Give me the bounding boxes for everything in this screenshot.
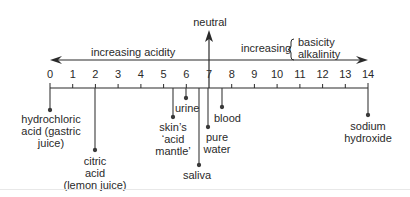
- scale-label-4: 4: [133, 69, 149, 80]
- scale-label-5: 5: [156, 69, 172, 80]
- scale-label-14: 14: [360, 69, 376, 80]
- alkalinity-term-label: alkalinity: [298, 48, 340, 60]
- skin-acid-mantle-label: skin’s ‘acid mantle’: [153, 121, 193, 157]
- saliva-label: saliva: [183, 169, 211, 181]
- neutral-label: neutral: [190, 16, 230, 28]
- label-line: citric: [62, 155, 128, 167]
- citric-acid-label: citric acid (lemon juice): [62, 155, 128, 191]
- label-line: pure: [202, 131, 232, 143]
- label-line: juice): [18, 137, 84, 149]
- label-line: acid (gastric: [18, 125, 84, 137]
- blood-label: blood: [214, 112, 241, 124]
- scale-label-11: 11: [292, 69, 308, 80]
- label-line: hydrochloric: [18, 113, 84, 125]
- scale-label-9: 9: [246, 69, 262, 80]
- sodium-hydroxide-label: sodium hydroxide: [343, 120, 393, 144]
- scale-label-7: 7: [201, 69, 217, 80]
- label-line: skin’s: [153, 121, 193, 133]
- label-line: sodium: [343, 120, 393, 132]
- label-line: mantle’: [153, 145, 193, 157]
- scale-label-10: 10: [269, 69, 285, 80]
- scale-label-13: 13: [337, 69, 353, 80]
- label-line: ‘acid: [153, 133, 193, 145]
- scale-label-1: 1: [65, 69, 81, 80]
- basicity-term-label: basicity: [298, 36, 335, 48]
- hydrochloric-acid-label: hydrochloric acid (gastric juice): [18, 113, 84, 149]
- label-line: hydroxide: [343, 132, 393, 144]
- bottom-divider: [0, 189, 410, 190]
- acidity-label: increasing acidity: [91, 46, 175, 58]
- scale-label-6: 6: [178, 69, 194, 80]
- label-line: water: [202, 143, 232, 155]
- label-line: acid: [62, 167, 128, 179]
- urine-label: urine: [175, 102, 199, 114]
- scale-label-3: 3: [110, 69, 126, 80]
- scale-label-0: 0: [42, 69, 58, 80]
- pure-water-label: pure water: [202, 131, 232, 155]
- scale-label-8: 8: [224, 69, 240, 80]
- scale-label-12: 12: [315, 69, 331, 80]
- scale-label-2: 2: [87, 69, 103, 80]
- basicity-prefix-label: increasing: [241, 42, 291, 54]
